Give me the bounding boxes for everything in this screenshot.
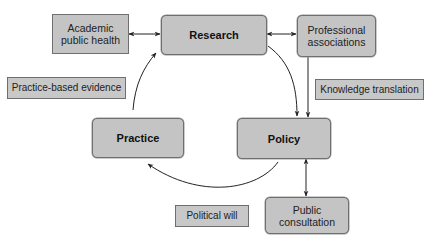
node-academic-public-health: Academic public health	[52, 14, 129, 54]
edge-label-knowledge-translation: Knowledge translation	[315, 79, 424, 100]
arrow-policy-practice	[148, 162, 278, 187]
edge-label-practice-based-evidence: Practice-based evidence	[7, 77, 126, 99]
node-public-consultation: Public consultation	[265, 197, 349, 234]
node-professional-associations: Professional associations	[297, 15, 376, 57]
node-label-line1: Professional	[308, 24, 366, 36]
node-research: Research	[161, 15, 267, 55]
node-label: Research	[189, 29, 239, 41]
node-label: Policy	[268, 133, 300, 145]
node-label: Practice	[117, 132, 160, 144]
node-label-line2: associations	[308, 36, 366, 48]
node-practice: Practice	[92, 118, 184, 158]
node-label-line1: Academic	[67, 22, 113, 34]
node-label-line2: public health	[61, 34, 120, 46]
arrow-research-policy	[268, 46, 297, 116]
node-policy: Policy	[237, 118, 331, 159]
edge-label-political-will: Political will	[175, 205, 249, 227]
node-label-line2: consultation	[279, 216, 335, 228]
node-label-line1: Public	[293, 204, 322, 216]
arrow-practice-research	[133, 53, 156, 110]
